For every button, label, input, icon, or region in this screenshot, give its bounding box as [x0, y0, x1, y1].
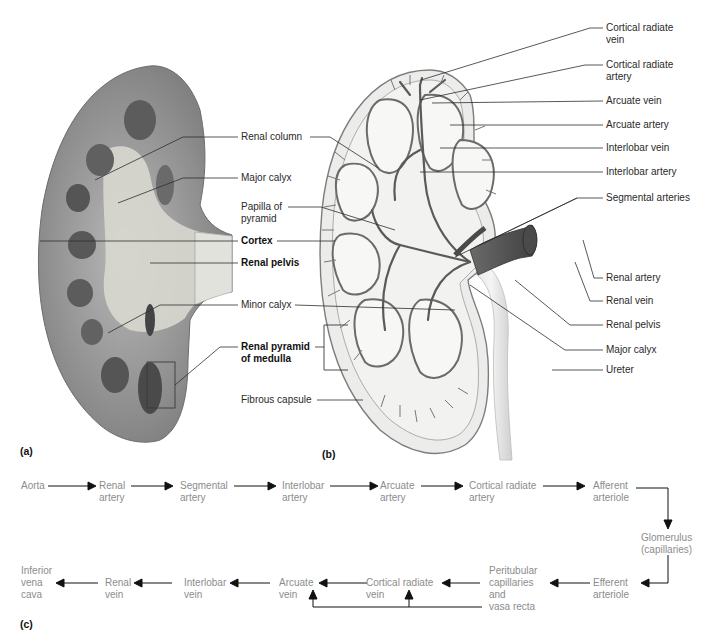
- label-major-calyx-b: Major calyx: [606, 344, 657, 356]
- flow-node-arcuate-artery: Arcuateartery: [380, 480, 414, 504]
- kidney-photo: [38, 66, 232, 442]
- flow-node-inferior-vena-cava: Inferiorvenacava: [21, 565, 52, 601]
- label-arcuate-vein: Arcuate vein: [606, 95, 662, 107]
- flow-node-aorta: Aorta: [21, 480, 45, 492]
- label-major-calyx: Major calyx: [241, 172, 292, 184]
- label-fibrous-capsule: Fibrous capsule: [241, 394, 312, 406]
- kidney-anatomy-figure: (a) (b) (c) Renal column Major calyx Pap…: [0, 0, 714, 631]
- panel-label-a: (a): [20, 445, 33, 457]
- panel-label-c: (c): [20, 618, 33, 630]
- flow-node-cortical-radiate-artery: Cortical radiateartery: [469, 480, 536, 504]
- flow-arrows: [48, 482, 672, 607]
- flow-node-peritubular-capillaries: Peritubularcapillariesandvasa recta: [489, 565, 537, 613]
- label-cortical-radiate-artery-1: Cortical radiate: [606, 59, 673, 71]
- label-minor-calyx: Minor calyx: [241, 299, 292, 311]
- label-renal-vein: Renal vein: [606, 295, 653, 307]
- label-interlobar-artery: Interlobar artery: [606, 166, 677, 178]
- label-renal-pelvis-a: Renal pelvis: [241, 257, 299, 269]
- label-renal-column: Renal column: [241, 131, 302, 143]
- flow-node-arcuate-vein: Arcuatevein: [279, 577, 313, 601]
- label-interlobar-vein: Interlobar vein: [606, 142, 669, 154]
- flow-node-afferent-arteriole: Afferentarteriole: [593, 480, 629, 504]
- label-segmental-arteries: Segmental arteries: [606, 192, 690, 204]
- flow-node-renal-vein: Renalvein: [105, 577, 131, 601]
- label-renal-pelvis-b: Renal pelvis: [606, 319, 660, 331]
- label-renal-pyramid-1: Renal pyramid: [241, 341, 310, 353]
- label-cortical-radiate-vein-1: Cortical radiate: [606, 22, 673, 34]
- label-arcuate-artery: Arcuate artery: [606, 119, 669, 131]
- flow-node-efferent-arteriole: Efferentarteriole: [593, 577, 629, 601]
- flow-node-cortical-radiate-vein: Cortical radiatevein: [366, 577, 433, 601]
- label-papilla-of-pyramid-2: pyramid: [241, 213, 277, 225]
- flow-node-interlobar-artery: Interlobarartery: [282, 480, 324, 504]
- flow-node-glomerulus: Glomerulus(capillaries): [641, 532, 692, 556]
- label-renal-artery: Renal artery: [606, 272, 660, 284]
- label-renal-pyramid-2: of medulla: [241, 353, 291, 365]
- panel-label-b: (b): [322, 448, 335, 460]
- label-cortical-radiate-vein-2: vein: [606, 34, 624, 46]
- label-ureter: Ureter: [606, 364, 634, 376]
- flow-node-renal-artery: Renalartery: [99, 480, 125, 504]
- flow-node-segmental-artery: Segmentalartery: [180, 480, 228, 504]
- label-cortex: Cortex: [241, 235, 273, 247]
- kidney-drawing: [320, 70, 537, 460]
- flow-node-interlobar-vein: Interlobarvein: [184, 577, 226, 601]
- label-papilla-of-pyramid-1: Papilla of: [241, 201, 282, 213]
- label-cortical-radiate-artery-2: artery: [606, 71, 632, 83]
